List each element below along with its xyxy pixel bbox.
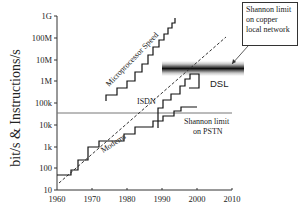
ytick-1M: 1M bbox=[40, 76, 52, 86]
label-isdn: ISDN bbox=[137, 97, 156, 106]
shannon-copper-callout: Shannon limit on copper local network bbox=[242, 2, 298, 46]
label-dsl: DSL bbox=[210, 78, 228, 89]
ytick-100M: 100M bbox=[32, 33, 53, 43]
x-tick-labels: 1960 1970 1980 1990 2000 2010 bbox=[49, 194, 241, 204]
label-shannon-pstn-1: Shannon limit bbox=[184, 117, 230, 126]
trend-dashed-line bbox=[59, 37, 226, 183]
ytick-10M: 10M bbox=[36, 55, 53, 65]
modems-line bbox=[57, 107, 197, 175]
xtick-1960: 1960 bbox=[49, 194, 66, 204]
label-microprocessor-speed: Microprocessor Speed bbox=[104, 31, 160, 89]
xtick-1970: 1970 bbox=[84, 194, 101, 204]
ytick-1k: 1k bbox=[44, 142, 53, 152]
xtick-1990: 1990 bbox=[154, 194, 171, 204]
microprocessor-speed-line bbox=[106, 18, 175, 101]
shannon-copper-band bbox=[162, 61, 244, 76]
ytick-100: 100 bbox=[39, 163, 52, 173]
ytick-10k: 10k bbox=[39, 120, 53, 130]
ytick-100k: 100k bbox=[35, 98, 53, 108]
xtick-1980: 1980 bbox=[119, 194, 136, 204]
y-axis-label: bit/s & Instructions/s bbox=[8, 49, 23, 166]
xtick-2010: 2010 bbox=[224, 194, 241, 204]
ytick-1G: 1G bbox=[42, 11, 52, 21]
label-shannon-pstn-2: on PSTN bbox=[193, 127, 223, 136]
xtick-2000: 2000 bbox=[189, 194, 206, 204]
y-tick-labels: 1G 100M 10M 1M 100k 10k 1k 100 10 bbox=[32, 11, 53, 195]
